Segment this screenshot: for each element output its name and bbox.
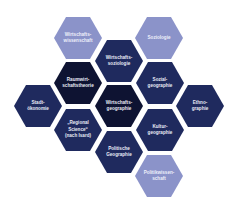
hex-label-line: soziologie	[108, 61, 130, 67]
hex-kulturgeographie: Kultur- geographie	[136, 109, 184, 151]
hex-wirtschaftssoziologie: Wirtschafts- soziologie	[95, 40, 143, 82]
hex-wirtschaftsgeographie: Wirtschafts- geographie	[95, 85, 143, 127]
hex-label-line: Geographie	[106, 152, 132, 158]
hex-label-line: wissenschaft	[64, 38, 93, 44]
hex-politikwissenschaft: Politikwissen- schaft	[135, 155, 183, 197]
hex-sozialgeographie: Sozial- geographie	[136, 62, 184, 104]
hex-label-line: schaft	[152, 176, 166, 182]
hex-raumwirtschaftstheorie: Raumwirt- schaftstheorie	[54, 62, 102, 104]
hex-label-line: Soziologie	[148, 35, 171, 41]
hex-label-line: geographie	[148, 83, 173, 89]
hex-label-line: geographie	[148, 130, 173, 136]
hex-regional-science: „Regional Science“ (nach Isard)	[54, 109, 102, 151]
hex-politische-geographie: Politische Geographie	[95, 131, 143, 173]
hex-label-line: (nach Isard)	[65, 133, 91, 139]
hex-wirtschaftswissenschaft: Wirtschafts- wissenschaft	[54, 17, 102, 59]
hex-label-line: graphie	[192, 106, 209, 112]
hexagon-diagram: Wirtschafts- wissenschaft Soziologie Wir…	[0, 0, 237, 209]
hex-label-line: ökonomie	[27, 106, 49, 112]
hex-ethnographie: Ethno- graphie	[176, 85, 224, 127]
hex-soziologie: Soziologie	[135, 17, 183, 59]
hex-label-line: geographie	[107, 106, 132, 112]
hex-label-line: schaftstheorie	[62, 83, 93, 89]
hex-stadtoekonomie: Stadt- ökonomie	[14, 85, 62, 127]
